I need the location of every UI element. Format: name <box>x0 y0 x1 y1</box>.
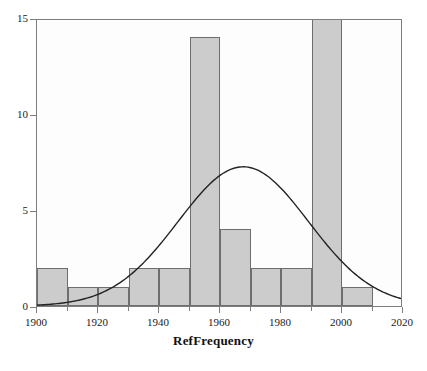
x-axis-tick <box>97 307 98 313</box>
x-axis-tick <box>158 307 159 313</box>
x-axis-tick <box>341 307 342 313</box>
y-axis-tick <box>30 19 36 20</box>
x-axis-tick-label: 2000 <box>330 316 352 328</box>
plot-area <box>36 19 402 307</box>
x-axis-tick <box>280 307 281 313</box>
x-axis-minor-tick <box>372 307 373 311</box>
y-axis-tick-label: 5 <box>23 205 29 216</box>
y-axis-tick-label: 10 <box>17 109 28 120</box>
x-axis-tick-label: 1920 <box>86 316 108 328</box>
x-axis-minor-tick <box>189 307 190 311</box>
x-axis-minor-tick <box>128 307 129 311</box>
x-axis-tick-label: 1900 <box>25 316 47 328</box>
x-axis-tick-label: 1980 <box>269 316 291 328</box>
y-axis-tick <box>30 211 36 212</box>
x-axis-tick-label: 1940 <box>147 316 169 328</box>
x-axis-minor-tick <box>250 307 251 311</box>
x-axis-title: RefFrequency <box>0 333 427 349</box>
y-axis-tick <box>30 115 36 116</box>
x-axis-tick <box>402 307 403 313</box>
x-axis-tick-label: 2020 <box>391 316 413 328</box>
x-axis-minor-tick <box>311 307 312 311</box>
histogram-figure: 051015 1900192019401960198020002020 RefF… <box>0 0 427 371</box>
y-axis-tick-label: 15 <box>17 13 28 24</box>
normal-density-curve <box>37 20 401 306</box>
x-axis-tick <box>219 307 220 313</box>
x-axis-minor-tick <box>67 307 68 311</box>
x-axis-tick <box>36 307 37 313</box>
x-axis-tick-label: 1960 <box>208 316 230 328</box>
